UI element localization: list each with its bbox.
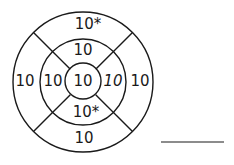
outer-top-label: 10*	[75, 15, 102, 33]
center-label: 10	[73, 72, 92, 90]
outer-left-label: 10	[15, 72, 34, 90]
divider-bottom-right	[96, 95, 133, 132]
divider-top-right	[96, 33, 133, 70]
middle-top-label: 10	[73, 41, 92, 59]
outer-right-label: 10	[130, 72, 149, 90]
middle-right-label: 10	[103, 72, 122, 90]
divider-top-left	[34, 33, 71, 70]
outer-bottom-label: 10	[74, 129, 93, 147]
middle-left-label: 10	[43, 72, 62, 90]
divider-bottom-left	[34, 95, 71, 132]
target-diagram: 10 10 10 10* 10 10* 10 10 10	[0, 0, 234, 165]
middle-bottom-label: 10*	[73, 103, 100, 121]
